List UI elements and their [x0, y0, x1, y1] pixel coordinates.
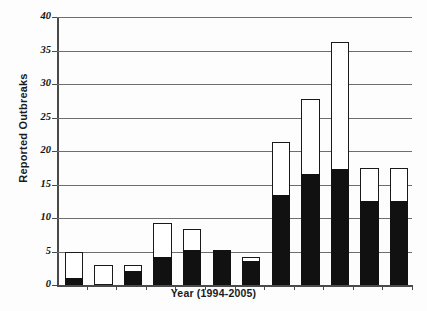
bar-segment-dark [331, 169, 349, 285]
y-axis-tick-labels: 0510152025303540 [0, 17, 51, 285]
bar-1995 [94, 17, 112, 285]
bar-1996 [124, 17, 142, 285]
y-tick-mark [52, 17, 57, 18]
y-tick-mark [52, 185, 57, 186]
y-tick-label: 40 [5, 10, 51, 21]
bar-2004 [360, 17, 378, 285]
bar-segment-dark [390, 201, 408, 285]
y-tick-label: 20 [5, 144, 51, 155]
bar-segment-light [94, 265, 112, 285]
bar-2003 [331, 17, 349, 285]
y-tick-mark [52, 218, 57, 219]
y-tick-label: 15 [5, 178, 51, 189]
bar-1999 [213, 17, 231, 285]
bar-2001 [272, 17, 290, 285]
bar-segment-dark [301, 174, 319, 285]
bar-segment-dark [242, 261, 260, 285]
y-tick-label: 35 [5, 44, 51, 55]
bar-segment-dark [360, 201, 378, 285]
y-tick-mark [52, 285, 57, 286]
bar-1997 [153, 17, 171, 285]
y-tick-mark [52, 84, 57, 85]
bar-1998 [183, 17, 201, 285]
bar-chart: Reported Outbreaks 0510152025303540 Year… [0, 0, 427, 311]
y-tick-label: 5 [5, 245, 51, 256]
y-tick-mark [52, 151, 57, 152]
y-tick-label: 30 [5, 77, 51, 88]
bar-segment-dark [183, 250, 201, 285]
y-tick-mark [52, 51, 57, 52]
x-axis-title: Year (1994-2005) [0, 287, 427, 299]
y-tick-label: 10 [5, 211, 51, 222]
bar-2002 [301, 17, 319, 285]
plot-area [57, 17, 412, 285]
bar-1994 [65, 17, 83, 285]
bar-segment-dark [65, 278, 83, 285]
bar-segment-dark [272, 195, 290, 285]
bar-2000 [242, 17, 260, 285]
bar-2005 [390, 17, 408, 285]
bar-segment-dark [153, 257, 171, 285]
y-tick-mark [52, 252, 57, 253]
bar-segment-dark [213, 250, 231, 285]
y-tick-label: 25 [5, 111, 51, 122]
y-tick-mark [52, 118, 57, 119]
bar-segment-dark [124, 271, 142, 285]
